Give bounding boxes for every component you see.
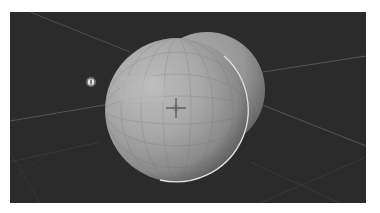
grid-line (30, 12, 130, 52)
grid-line-faint (10, 142, 100, 162)
light-icon[interactable] (86, 77, 96, 87)
sphere-front[interactable] (105, 38, 249, 182)
grid-line (250, 100, 366, 146)
grid-line-faint (10, 152, 40, 203)
viewport-canvas[interactable] (10, 12, 366, 203)
screenshot-frame (0, 0, 380, 213)
grid-line (250, 56, 366, 74)
grid-line-faint (260, 157, 366, 203)
grid-line-faint (250, 162, 340, 203)
3d-viewport[interactable] (10, 12, 366, 203)
grid-line-faint (10, 152, 50, 182)
grid-line (10, 104, 110, 121)
